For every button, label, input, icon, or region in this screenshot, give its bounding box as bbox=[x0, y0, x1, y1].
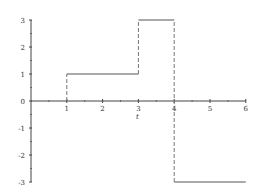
y-tick-label: -2 bbox=[18, 152, 25, 160]
y-tick-label: -3 bbox=[18, 179, 25, 187]
x-tick-label: 1 bbox=[65, 105, 69, 113]
x-tick-label: 5 bbox=[208, 105, 212, 113]
y-tick-label: 2 bbox=[21, 44, 25, 52]
step-function-chart: 3210-1-2-3123456t bbox=[0, 0, 261, 192]
x-tick-label: 3 bbox=[136, 105, 140, 113]
y-tick-label: -1 bbox=[18, 125, 25, 133]
x-tick-label: 6 bbox=[244, 105, 249, 113]
chart-canvas: 3210-1-2-3123456t bbox=[0, 0, 261, 192]
x-axis-label: t bbox=[136, 113, 139, 121]
y-tick-label: 0 bbox=[21, 98, 25, 106]
y-tick-label: 1 bbox=[21, 71, 25, 79]
x-tick-label: 2 bbox=[100, 105, 104, 113]
y-tick-label: 3 bbox=[21, 17, 25, 25]
